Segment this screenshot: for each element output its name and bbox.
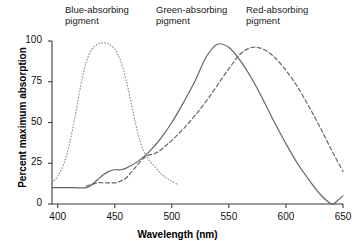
absorption-spectrum-chart: Blue-absorbing pigment Green-absorbing p…: [0, 0, 355, 248]
y-axis-title: Percent maximum absorption: [17, 33, 28, 203]
series-line-blue-absorbing-pigment: [52, 43, 178, 185]
x-tick-label: 550: [212, 211, 246, 222]
series-line-green-absorbing-pigment: [52, 44, 343, 205]
x-tick-label: 450: [98, 211, 132, 222]
y-axis-ticks: [48, 41, 52, 204]
x-axis-ticks: [58, 204, 343, 208]
x-tick-label: 400: [41, 211, 75, 222]
data-series-layer: [52, 43, 343, 205]
series-line-red-absorbing-pigment: [86, 47, 343, 186]
x-tick-label: 650: [326, 211, 355, 222]
x-axis-title: Wavelength (nm): [0, 229, 355, 240]
axis-lines: [52, 41, 343, 204]
x-tick-label: 500: [155, 211, 189, 222]
x-tick-label: 600: [269, 211, 303, 222]
